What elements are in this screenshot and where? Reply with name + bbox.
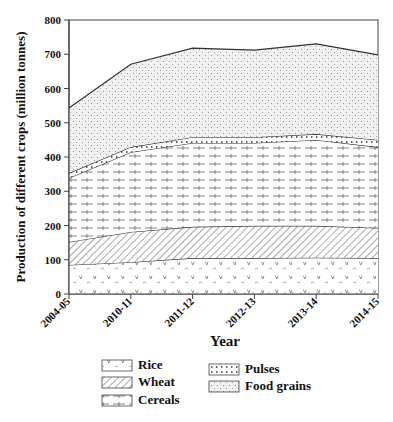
stacked-area-chart: ^ v 0100200300400500600700800 2004-05201… xyxy=(0,0,393,422)
legend-item-rice: Rice xyxy=(102,357,163,372)
svg-text:Food grains: Food grains xyxy=(245,378,311,393)
svg-text:Pulses: Pulses xyxy=(245,361,280,376)
legend-item-pulses: Pulses xyxy=(209,361,280,376)
x-tick-label: 2011-12 xyxy=(162,295,196,329)
x-tick-label: 2010-11 xyxy=(100,295,134,329)
legend: Rice Wheat Cereals Pulses Food grains xyxy=(102,357,311,407)
area-layers xyxy=(69,44,378,294)
legend-item-cereals: Cereals xyxy=(102,392,180,407)
x-tick-label: 2013-14 xyxy=(285,295,320,330)
y-tick-label: 500 xyxy=(45,117,62,129)
y-tick-label: 100 xyxy=(45,254,62,266)
svg-text:Cereals: Cereals xyxy=(138,392,180,407)
svg-text:Wheat: Wheat xyxy=(138,374,176,389)
x-axis-title: Year xyxy=(210,333,240,349)
y-tick-label: 400 xyxy=(45,151,62,163)
y-tick-label: 600 xyxy=(45,83,62,95)
legend-item-wheat: Wheat xyxy=(102,374,176,389)
x-axis: 2004-052010-112011-122012-132013-142014-… xyxy=(38,292,382,329)
y-tick-label: 700 xyxy=(45,48,62,60)
x-tick-label: 2014-15 xyxy=(347,295,382,330)
y-tick-label: 200 xyxy=(45,220,62,232)
y-axis: 0100200300400500600700800 xyxy=(45,14,70,300)
y-tick-label: 800 xyxy=(45,14,62,26)
y-axis-title: Production of different crops (million t… xyxy=(13,32,28,283)
legend-item-food-grains: Food grains xyxy=(209,378,311,393)
svg-text:Rice: Rice xyxy=(138,357,163,372)
x-tick-label: 2012-13 xyxy=(223,295,258,330)
y-tick-label: 300 xyxy=(45,185,62,197)
